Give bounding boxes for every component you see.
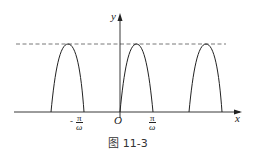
y-axis-label: y bbox=[111, 10, 116, 22]
origin-label: O bbox=[114, 114, 122, 126]
denominator: ω bbox=[149, 123, 155, 131]
arch-curve-1 bbox=[51, 44, 84, 112]
minus-sign: - bbox=[70, 117, 73, 125]
tick-label-pi-over-omega: π ω bbox=[149, 114, 156, 131]
x-axis-label: x bbox=[235, 112, 240, 124]
arch-curve-2 bbox=[120, 44, 153, 112]
figure-caption: 图 11-3 bbox=[0, 134, 256, 150]
arch-curve-3 bbox=[189, 44, 222, 112]
denominator: ω bbox=[76, 123, 82, 131]
y-axis-arrow-icon bbox=[118, 13, 123, 21]
tick-label-neg-pi-over-omega: -π ω bbox=[76, 114, 83, 131]
